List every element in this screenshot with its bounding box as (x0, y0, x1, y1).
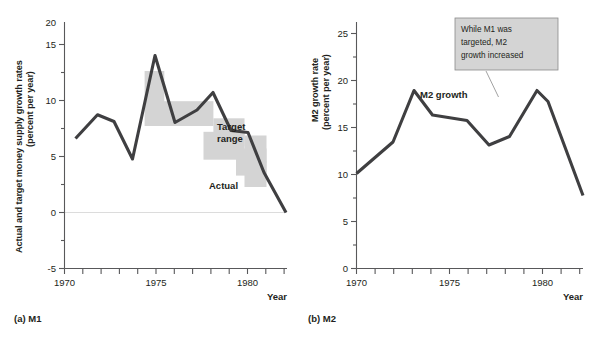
target-range-blocks (145, 71, 267, 187)
callout-text-line3: growth increased (461, 51, 524, 60)
x-tick-label: 1970 (54, 277, 75, 288)
y-tick-label-20: 20 (45, 17, 56, 28)
panel-m2: 0 5 10 15 20 25 1970 1975 1980 Year M2 g… (298, 0, 596, 338)
y-tick-label: 25 (337, 28, 348, 39)
target-range-block (179, 101, 213, 126)
actual-label-m1: Actual (209, 180, 238, 191)
actual-line-m1 (76, 56, 287, 213)
y-tick-label: 10 (45, 95, 56, 106)
y-tick-label: 0 (51, 207, 56, 218)
y-tick-label: 15 (45, 39, 56, 50)
callout-leader-line (486, 71, 499, 97)
x-tick-label: 1970 (346, 277, 367, 288)
panel-caption-m1: (a) M1 (14, 313, 41, 324)
callout-text-line2: targeted, M2 (461, 38, 507, 47)
chart-m1-svg: -5 0 5 10 15 20 20 1970 1975 1980 Year A… (0, 0, 298, 338)
x-axis-title-m2: Year (563, 291, 583, 302)
y-tick-label: -5 (48, 263, 56, 274)
panel-caption-m2: (b) M2 (308, 313, 336, 324)
y-tick-label: 20 (337, 75, 348, 86)
x-ticks-m1 (65, 269, 285, 275)
x-axis-title-m1: Year (267, 291, 287, 302)
x-ticks-m2 (357, 269, 580, 275)
y-axis-title-line1-m2: M2 growth rate (310, 58, 320, 122)
x-tick-label: 1975 (439, 277, 460, 288)
y-tick-label: 0 (343, 263, 348, 274)
m2-growth-label: M2 growth (420, 89, 468, 100)
y-ticks-m1 (59, 45, 65, 269)
y-tick-label: 5 (51, 151, 56, 162)
chart-m1-canvas: -5 0 5 10 15 20 20 1970 1975 1980 Year A… (0, 0, 298, 338)
y-tick-label: 5 (343, 216, 348, 227)
m2-growth-line (357, 91, 584, 196)
y-ticks-m2 (351, 34, 357, 269)
y-axis-title-line1-m1: Actual and target money supply growth ra… (14, 60, 24, 253)
x-tick-label: 1980 (532, 277, 553, 288)
y-axis-title-line2-m2: (percent per year) (321, 54, 331, 130)
chart-m2-svg: 0 5 10 15 20 25 1970 1975 1980 Year M2 g… (298, 0, 596, 338)
target-range-label-line2: range (217, 133, 243, 144)
x-tick-label: 1975 (145, 277, 166, 288)
y-axis-title-line2-m1: (percent per year) (25, 71, 35, 147)
y-tick-label: 15 (337, 122, 348, 133)
panel-m1: -5 0 5 10 15 20 20 1970 1975 1980 Year A… (0, 0, 298, 338)
y-tick-label: 10 (337, 169, 348, 180)
x-tick-label: 1980 (237, 277, 258, 288)
chart-m2-canvas: 0 5 10 15 20 25 1970 1975 1980 Year M2 g… (298, 0, 596, 338)
callout-text-line1: While M1 was (461, 25, 512, 34)
target-range-label-line1: Target (217, 121, 246, 132)
callout-annotation: While M1 was targeted, M2 growth increas… (455, 18, 558, 70)
